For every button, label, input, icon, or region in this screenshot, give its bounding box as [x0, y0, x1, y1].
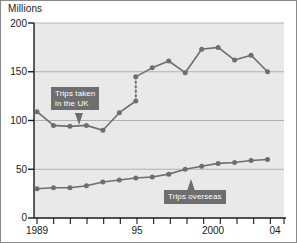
y-tick-marks [28, 23, 34, 218]
overseas-point [84, 183, 89, 188]
uk-post-point [150, 65, 155, 70]
chart-plot-svg [1, 1, 297, 243]
uk-post-point [249, 53, 254, 58]
overseas-point [265, 157, 270, 162]
overseas-point [35, 186, 40, 191]
overseas-callout-label: Trips overseas [164, 190, 226, 204]
overseas-point [133, 176, 138, 181]
line-chart: Millions 200 150 100 50 0 1989 95 2000 0… [1, 1, 297, 243]
overseas-point [117, 177, 122, 182]
overseas-point [216, 161, 221, 166]
uk-pre-point [35, 109, 40, 114]
uk-pre-point [100, 128, 105, 133]
overseas-point [150, 175, 155, 180]
overseas-point [199, 164, 204, 169]
overseas-point [232, 160, 237, 165]
uk-post-point [133, 74, 138, 79]
uk-pre-point [67, 124, 72, 129]
x-tick-marks [37, 218, 284, 224]
uk-post-point [216, 45, 221, 50]
overseas-point [51, 185, 56, 190]
uk-pre-point [84, 123, 89, 128]
chart-frame: Millions 200 150 100 50 0 1989 95 2000 0… [0, 0, 297, 243]
uk-post-point [199, 47, 204, 52]
overseas-point [183, 167, 188, 172]
uk-post-point [183, 70, 188, 75]
overseas-point [166, 172, 171, 177]
uk-post-point [232, 58, 237, 63]
uk-post-point [265, 69, 270, 74]
uk-callout-label: Trips taken in the UK [51, 87, 99, 110]
uk-pre-point [51, 123, 56, 128]
overseas-point [100, 179, 105, 184]
overseas-point [249, 158, 254, 163]
overseas-point [67, 185, 72, 190]
uk-pre-point [117, 110, 122, 115]
uk-post-point [166, 59, 171, 64]
